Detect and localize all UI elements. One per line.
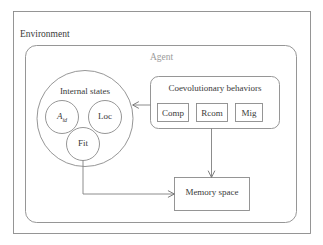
node-loc-label: Loc	[89, 112, 121, 121]
environment-label: Environment	[20, 30, 70, 40]
coevolutionary-behaviors-label: Coevolutionary behaviors	[152, 84, 278, 93]
internal-states-label: Internal states	[37, 87, 133, 96]
node-aid-label-sub: id	[62, 117, 67, 123]
memory-space-label: Memory space	[174, 188, 250, 197]
agent-boundary	[26, 46, 297, 223]
agent-label: Agent	[0, 53, 323, 63]
diagram-canvas: Environment Agent Internal states Aid Lo…	[0, 0, 323, 245]
node-fit-label: Fit	[67, 139, 99, 148]
behavior-comp-label: Comp	[158, 109, 188, 118]
behavior-mig-label: Mig	[236, 109, 262, 118]
behavior-rcom-label: Rcom	[197, 109, 227, 118]
node-aid-label: Aid	[46, 112, 78, 123]
